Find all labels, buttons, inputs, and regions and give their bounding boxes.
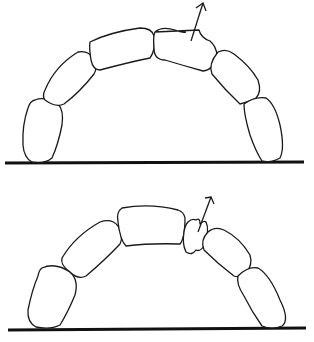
top-panel <box>5 3 304 163</box>
bottom-ground-line <box>8 328 306 330</box>
bottom-block-1 <box>28 266 76 328</box>
bottom-block-3 <box>118 206 186 246</box>
bottom-block-5 <box>238 268 286 328</box>
top-ground-line <box>5 162 304 163</box>
arch-diagram <box>0 0 314 342</box>
top-block-4 <box>154 28 217 71</box>
top-block-3 <box>90 28 155 70</box>
diagram-canvas <box>0 0 314 342</box>
bottom-block-4 <box>203 228 251 276</box>
bottom-block-2 <box>62 221 122 278</box>
top-block-1 <box>23 99 63 163</box>
top-block-6 <box>244 98 283 162</box>
top-block-2 <box>44 52 96 106</box>
bottom-panel <box>8 197 306 330</box>
top-block-5 <box>211 50 260 104</box>
